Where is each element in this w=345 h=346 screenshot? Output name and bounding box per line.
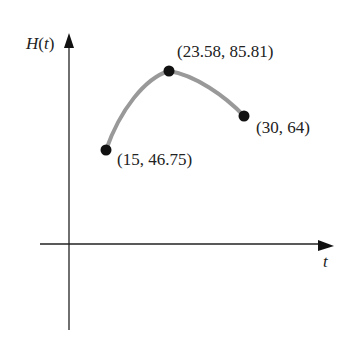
data-point-max — [164, 66, 175, 77]
point-label-max: (23.58, 85.81) — [177, 42, 273, 62]
x-axis-arrow-icon — [318, 240, 334, 251]
data-point-end — [239, 111, 250, 122]
data-point-start — [101, 145, 112, 156]
point-label-end: (30, 64) — [256, 118, 310, 138]
chart-figure: H(t) t (15, 46.75) (23.58, 85.81) (30, 6… — [0, 0, 345, 346]
curve — [106, 71, 244, 150]
point-label-start: (15, 46.75) — [117, 150, 192, 170]
y-axis-label: H(t) — [26, 34, 54, 54]
y-axis-arrow-icon — [64, 33, 74, 48]
x-axis-label: t — [323, 252, 328, 272]
